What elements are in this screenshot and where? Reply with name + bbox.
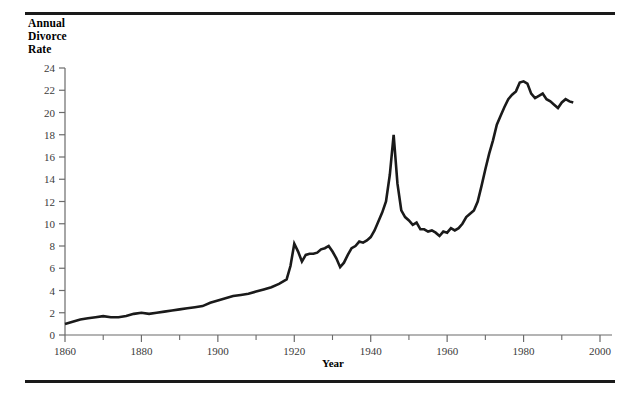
y-tick-label: 14 bbox=[44, 173, 56, 185]
y-tick-label: 18 bbox=[44, 129, 56, 141]
y-tick-label: 20 bbox=[44, 107, 56, 119]
x-axis-title-text: Year bbox=[322, 357, 344, 369]
x-tick-label: 1960 bbox=[436, 345, 459, 357]
y-tick-label: 8 bbox=[50, 240, 56, 252]
y-tick-label: 4 bbox=[50, 285, 56, 297]
y-tick-label: 2 bbox=[50, 307, 56, 319]
x-tick-label: 1900 bbox=[207, 345, 230, 357]
x-axis-title: Year bbox=[0, 357, 640, 369]
figure-container: Annual Divorce Rate 02468101214161820222… bbox=[0, 0, 640, 393]
data-line-annual-divorce-rate bbox=[65, 81, 573, 324]
y-tick-label: 22 bbox=[44, 84, 55, 96]
x-tick-label: 1920 bbox=[283, 345, 306, 357]
y-tick-label: 16 bbox=[44, 151, 56, 163]
y-tick-label: 10 bbox=[44, 218, 56, 230]
x-tick-label: 1940 bbox=[360, 345, 383, 357]
y-tick-label: 12 bbox=[44, 196, 55, 208]
y-tick-label: 24 bbox=[44, 62, 56, 74]
line-chart: 0246810121416182022241860188019001920194… bbox=[0, 0, 640, 393]
x-tick-label: 1860 bbox=[54, 345, 77, 357]
x-tick-label: 2000 bbox=[589, 345, 612, 357]
y-tick-label: 0 bbox=[50, 329, 56, 341]
x-tick-label: 1880 bbox=[130, 345, 153, 357]
y-tick-label: 6 bbox=[50, 262, 56, 274]
x-tick-label: 1980 bbox=[513, 345, 536, 357]
